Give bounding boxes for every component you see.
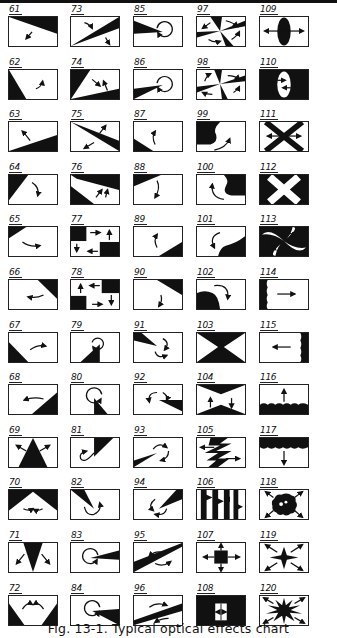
transition-diagram-icon — [71, 490, 119, 519]
effect-number: 115 — [260, 321, 276, 330]
transition-diagram-icon — [71, 227, 119, 256]
effect-diagram-98 — [196, 69, 246, 100]
transition-diagram-icon — [71, 543, 119, 572]
effect-diagram-61 — [8, 16, 58, 47]
effect-diagram-74 — [70, 69, 120, 100]
effect-cell-81: 81 — [70, 426, 124, 472]
effect-cell-76: 76 — [70, 163, 124, 209]
effect-diagram-115 — [259, 332, 309, 363]
effect-diagram-99 — [196, 121, 246, 152]
effect-diagram-100 — [196, 174, 246, 205]
effect-number: 87 — [134, 110, 145, 119]
effect-diagram-105 — [196, 437, 246, 468]
transition-diagram-icon — [71, 17, 119, 46]
transition-diagram-icon — [197, 438, 245, 467]
transition-diagram-icon — [9, 227, 57, 256]
transition-diagram-icon — [71, 70, 119, 99]
effect-cell-79: 79 — [70, 321, 124, 367]
transition-diagram-icon — [134, 280, 182, 309]
effect-number: 117 — [260, 426, 276, 435]
effect-number: 73 — [71, 5, 82, 14]
effect-cell-98: 98 — [196, 58, 250, 104]
transition-diagram-icon — [260, 122, 308, 151]
effect-cell-110: 110 — [259, 58, 313, 104]
effect-diagram-109 — [259, 16, 309, 47]
effect-diagram-77 — [70, 226, 120, 257]
effect-diagram-90 — [133, 279, 183, 310]
transition-diagram-icon — [134, 438, 182, 467]
effect-cell-89: 89 — [133, 215, 187, 261]
transition-diagram-icon — [260, 490, 308, 519]
transition-diagram-icon — [134, 490, 182, 519]
transition-diagram-icon — [260, 438, 308, 467]
transition-diagram-icon — [134, 543, 182, 572]
effect-number: 80 — [71, 373, 82, 382]
effect-diagram-106 — [196, 489, 246, 520]
transition-diagram-icon — [71, 385, 119, 414]
effect-diagram-104 — [196, 384, 246, 415]
effect-diagram-116 — [259, 384, 309, 415]
effect-diagram-67 — [8, 332, 58, 363]
effect-cell-82: 82 — [70, 478, 124, 524]
effect-diagram-117 — [259, 437, 309, 468]
effect-number: 118 — [260, 478, 276, 487]
effect-number: 110 — [260, 58, 276, 67]
effect-diagram-62 — [8, 69, 58, 100]
transition-diagram-icon — [9, 17, 57, 46]
effect-number: 102 — [197, 268, 213, 277]
transition-diagram-icon — [260, 333, 308, 362]
transition-diagram-icon — [9, 385, 57, 414]
transition-diagram-icon — [197, 385, 245, 414]
effect-cell-64: 64 — [8, 163, 62, 209]
effect-number: 95 — [134, 531, 145, 540]
transition-diagram-icon — [260, 280, 308, 309]
effect-cell-85: 85 — [133, 5, 187, 51]
effect-number: 106 — [197, 478, 213, 487]
transition-diagram-icon — [9, 122, 57, 151]
effect-cell-111: 111 — [259, 110, 313, 156]
effect-cell-105: 105 — [196, 426, 250, 472]
effect-diagram-76 — [70, 174, 120, 205]
effect-number: 88 — [134, 163, 145, 172]
transition-diagram-icon — [197, 333, 245, 362]
effect-diagram-81 — [70, 437, 120, 468]
effect-diagram-83 — [70, 542, 120, 573]
effect-number: 113 — [260, 215, 276, 224]
transition-diagram-icon — [71, 333, 119, 362]
effect-cell-62: 62 — [8, 58, 62, 104]
effect-diagram-68 — [8, 384, 58, 415]
effect-cell-83: 83 — [70, 531, 124, 577]
effect-number: 104 — [197, 373, 213, 382]
effect-diagram-119 — [259, 542, 309, 573]
transition-diagram-icon — [134, 70, 182, 99]
effect-number: 111 — [260, 110, 276, 119]
effect-number: 109 — [260, 5, 276, 14]
effect-diagram-71 — [8, 542, 58, 573]
transition-diagram-icon — [197, 175, 245, 204]
effect-cell-78: 78 — [70, 268, 124, 314]
transition-diagram-icon — [71, 122, 119, 151]
effect-number: 72 — [9, 584, 20, 593]
effect-diagram-73 — [70, 16, 120, 47]
transition-diagram-icon — [197, 543, 245, 572]
effect-cell-86: 86 — [133, 58, 187, 104]
effect-diagram-110 — [259, 69, 309, 100]
transition-diagram-icon — [197, 70, 245, 99]
effect-number: 112 — [260, 163, 276, 172]
effect-diagram-69 — [8, 437, 58, 468]
effect-number: 89 — [134, 215, 145, 224]
effect-diagram-64 — [8, 174, 58, 205]
effect-cell-112: 112 — [259, 163, 313, 209]
effect-cell-116: 116 — [259, 373, 313, 419]
effect-diagram-113 — [259, 226, 309, 257]
effect-diagram-79 — [70, 332, 120, 363]
effect-number: 75 — [71, 110, 82, 119]
effect-diagram-92 — [133, 384, 183, 415]
effect-number: 92 — [134, 373, 145, 382]
effect-diagram-88 — [133, 174, 183, 205]
effect-number: 69 — [9, 426, 20, 435]
effect-cell-66: 66 — [8, 268, 62, 314]
effect-cell-100: 100 — [196, 163, 250, 209]
effect-number: 67 — [9, 321, 20, 330]
effect-diagram-101 — [196, 226, 246, 257]
